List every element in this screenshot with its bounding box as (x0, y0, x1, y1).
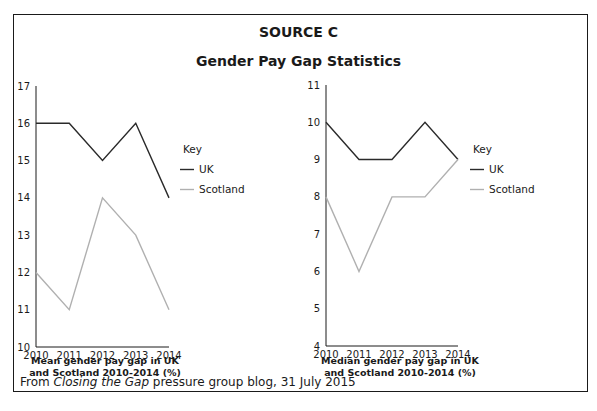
mean-caption-line1: Mean gender pay gap in UK (20, 355, 190, 367)
y-tick-label: 7 (314, 229, 320, 240)
legend-label-uk: UK (199, 163, 215, 175)
mean-chart: 101112131415161720102011201220132014KeyU… (17, 81, 244, 362)
y-tick-label: 5 (314, 303, 320, 314)
y-tick-label: 12 (17, 267, 30, 278)
y-tick-label: 14 (17, 192, 30, 203)
y-tick-label: 11 (307, 80, 320, 91)
median-chart: 456789101120102011201220132014KeyUKScotl… (307, 80, 534, 361)
y-tick-label: 10 (307, 117, 320, 128)
legend-label-scotland: Scotland (489, 183, 535, 195)
uk-series-line (36, 123, 169, 198)
y-tick-label: 6 (314, 266, 320, 277)
legend-label-uk: UK (489, 163, 505, 175)
y-tick-label: 9 (314, 154, 320, 165)
y-tick-label: 11 (17, 304, 30, 315)
y-tick-label: 15 (17, 155, 30, 166)
scotland-series-line (326, 160, 458, 272)
median-caption-line1: Median gender pay gap in UK (315, 355, 485, 367)
legend-title: Key (183, 143, 202, 155)
y-tick-label: 17 (17, 81, 30, 92)
legend-title: Key (473, 143, 492, 155)
y-tick-label: 13 (17, 230, 30, 241)
publication-name: Closing the Gap (54, 375, 149, 389)
uk-series-line (326, 122, 458, 159)
source-citation: From Closing the Gap pressure group blog… (20, 375, 356, 389)
charts-canvas: 101112131415161720102011201220132014KeyU… (0, 0, 597, 411)
y-tick-label: 16 (17, 118, 30, 129)
y-tick-label: 8 (314, 191, 320, 202)
scotland-series-line (36, 198, 169, 310)
legend-label-scotland: Scotland (199, 183, 245, 195)
